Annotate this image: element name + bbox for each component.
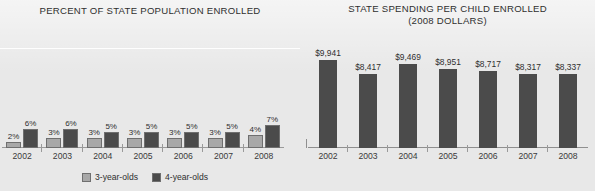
bar-4-year-olds	[104, 132, 119, 148]
percent-bar-group: 3%5%2006	[163, 100, 203, 148]
y-axis-stub	[306, 139, 307, 148]
spending-bar-group: $8,7172006	[468, 44, 508, 148]
bar-value-label: 4%	[250, 125, 262, 134]
percent-bar-group: 3%6%2003	[42, 100, 82, 148]
spending-bar-wrapper: $8,951	[428, 44, 468, 148]
spending-bar	[359, 74, 377, 148]
bar-4-year-olds	[63, 129, 78, 149]
percent-bar-group: 3%5%2007	[203, 100, 243, 148]
bar-value-label: 6%	[65, 119, 77, 128]
x-axis-label: 2007	[508, 151, 548, 161]
bar-3-year-olds	[127, 138, 142, 148]
percent-bar-group: 2%6%2002	[2, 100, 42, 148]
x-axis-label: 2005	[123, 151, 163, 161]
percent-bar-group: 3%5%2005	[123, 100, 163, 148]
legend-swatch-4-year-olds	[152, 173, 161, 182]
percent-enrolled-plot-area: 2%6%20023%6%20033%5%20043%5%20053%5%2006…	[2, 100, 284, 148]
percent-bar-wrapper: 2%	[6, 100, 21, 148]
spending-bar-wrapper: $9,941	[308, 44, 348, 148]
legend-item-4-year-olds: 4-year-olds	[152, 172, 208, 182]
bar-value-label: 3%	[88, 128, 100, 137]
x-axis-label: 2006	[468, 151, 508, 161]
bar-3-year-olds	[46, 138, 61, 148]
x-axis-label: 2003	[42, 151, 82, 161]
bar-value-label: $9,469	[395, 52, 421, 62]
percent-bar-wrapper: 3%	[87, 100, 102, 148]
bar-value-label: $8,417	[355, 62, 381, 72]
spending-bar	[559, 74, 577, 148]
bar-4-year-olds	[265, 125, 280, 148]
percent-bar-wrapper: 3%	[208, 100, 223, 148]
x-axis-label: 2003	[348, 151, 388, 161]
x-axis-label: 2002	[308, 151, 348, 161]
bar-value-label: 3%	[209, 128, 221, 137]
title-divider-rule	[0, 48, 300, 49]
percent-bar-group: 4%7%2008	[244, 100, 284, 148]
percent-bar-wrapper: 6%	[23, 100, 38, 148]
bar-value-label: 3%	[48, 128, 60, 137]
bar-3-year-olds	[6, 142, 21, 149]
spending-bar	[399, 64, 417, 148]
right-chart-title-line1: STATE SPENDING PER CHILD ENROLLED	[348, 3, 547, 14]
percent-bar-wrapper: 3%	[46, 100, 61, 148]
legend-label-4-year-olds: 4-year-olds	[165, 172, 208, 182]
x-axis-label: 2007	[203, 151, 243, 161]
spending-bar-groups: $9,9412002$8,4172003$9,4692004$8,9512005…	[308, 44, 588, 148]
percent-bar-group: 3%5%2004	[83, 100, 123, 148]
percent-bar-wrapper: 4%	[248, 100, 263, 148]
spending-bar-group: $9,4692004	[388, 44, 428, 148]
bar-value-label: $8,317	[515, 62, 541, 72]
spending-bar-group: $8,3172007	[508, 44, 548, 148]
bar-value-label: 3%	[169, 128, 181, 137]
bar-value-label: 7%	[267, 115, 279, 124]
spending-bar-wrapper: $9,469	[388, 44, 428, 148]
spending-bar-wrapper: $8,717	[468, 44, 508, 148]
percent-bar-wrapper: 5%	[104, 100, 119, 148]
spending-bar-wrapper: $8,317	[508, 44, 548, 148]
bar-value-label: $8,717	[475, 59, 501, 69]
spending-bar-group: $8,3372008	[548, 44, 588, 148]
left-chart-legend: 3-year-olds 4-year-olds	[0, 172, 290, 182]
bar-value-label: $9,941	[315, 48, 341, 58]
percent-bar-wrapper: 3%	[127, 100, 142, 148]
legend-item-3-year-olds: 3-year-olds	[82, 172, 138, 182]
bar-4-year-olds	[23, 129, 38, 149]
bar-value-label: 5%	[105, 122, 117, 131]
x-axis-label: 2005	[428, 151, 468, 161]
percent-bar-groups: 2%6%20023%6%20033%5%20043%5%20053%5%2006…	[2, 100, 284, 148]
bar-3-year-olds	[248, 135, 263, 148]
x-axis-label: 2004	[83, 151, 123, 161]
bar-4-year-olds	[225, 132, 240, 148]
x-axis-label: 2002	[2, 151, 42, 161]
percent-bar-wrapper: 5%	[184, 100, 199, 148]
percent-bar-wrapper: 3%	[167, 100, 182, 148]
left-chart-title: PERCENT OF STATE POPULATION ENROLLED	[0, 5, 300, 17]
state-spending-chart-panel: STATE SPENDING PER CHILD ENROLLED (2008 …	[300, 0, 595, 191]
spending-bar	[519, 74, 537, 148]
bar-4-year-olds	[144, 132, 159, 148]
bar-value-label: 3%	[129, 128, 141, 137]
legend-swatch-3-year-olds	[82, 173, 91, 182]
spending-bar-group: $8,9512005	[428, 44, 468, 148]
percent-enrolled-chart-panel: PERCENT OF STATE POPULATION ENROLLED 2%6…	[0, 0, 300, 191]
spending-bar-wrapper: $8,417	[348, 44, 388, 148]
percent-bar-wrapper: 6%	[63, 100, 78, 148]
spending-bar-wrapper: $8,337	[548, 44, 588, 148]
bar-4-year-olds	[184, 132, 199, 148]
spending-bar	[439, 69, 457, 148]
spending-bar-group: $9,9412002	[308, 44, 348, 148]
spending-bar	[319, 60, 337, 148]
x-axis-label: 2008	[244, 151, 284, 161]
bar-value-label: 5%	[186, 122, 198, 131]
right-chart-title: STATE SPENDING PER CHILD ENROLLED (2008 …	[300, 3, 595, 27]
x-axis-label: 2008	[548, 151, 588, 161]
x-axis-label: 2004	[388, 151, 428, 161]
bar-value-label: 5%	[226, 122, 238, 131]
right-chart-title-line2: (2008 DOLLARS)	[300, 15, 595, 27]
legend-label-3-year-olds: 3-year-olds	[95, 172, 138, 182]
percent-bar-wrapper: 5%	[144, 100, 159, 148]
bar-value-label: $8,337	[555, 62, 581, 72]
bar-value-label: 6%	[25, 119, 37, 128]
spending-bar-group: $8,4172003	[348, 44, 388, 148]
percent-bar-wrapper: 7%	[265, 100, 280, 148]
